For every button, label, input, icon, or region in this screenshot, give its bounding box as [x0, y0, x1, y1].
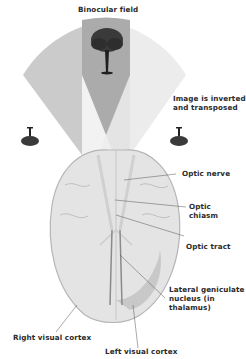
tree-inverted-left-icon [21, 127, 39, 146]
lgn-label-line3: thalamus) [169, 303, 211, 313]
left-visual-cortex-label: Left visual cortex [105, 347, 177, 357]
image-inverted-label-line2: and transposed [173, 103, 238, 113]
optic-chiasm-label-line2: chiasm [189, 211, 218, 221]
binocular-field-label: Binocular field [78, 5, 138, 15]
optic-tract-label: Optic tract [186, 242, 231, 252]
tree-inverted-right-icon [170, 127, 188, 146]
right-visual-cortex-label: Right visual cortex [13, 333, 91, 343]
optic-nerve-label: Optic nerve [182, 169, 230, 179]
